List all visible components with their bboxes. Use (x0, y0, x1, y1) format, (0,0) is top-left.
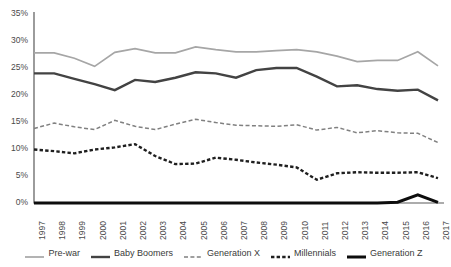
x-tick-label: 2013 (361, 221, 370, 240)
legend-label: Millennials (294, 248, 336, 258)
x-tick-label: 2005 (200, 221, 209, 240)
series-line-generation-z (34, 195, 438, 203)
y-axis: 0%5%10%15%20%25%30%35% (0, 0, 30, 215)
y-tick-label: 25% (11, 63, 28, 72)
legend-item-generation-z[interactable]: Generation Z (347, 248, 423, 258)
x-tick-label: 2003 (159, 221, 168, 240)
legend-swatch-icon (184, 248, 203, 258)
x-tick-label: 2010 (301, 221, 310, 240)
plot-area (32, 12, 444, 205)
legend-swatch-icon (271, 248, 290, 258)
x-tick-label: 2001 (119, 221, 128, 240)
x-axis: 1997199819992000200120022003200420052006… (32, 206, 444, 240)
x-tick-label: 2017 (442, 221, 451, 240)
legend-item-generation-x[interactable]: Generation X (184, 248, 260, 258)
y-tick-label: 15% (11, 117, 28, 126)
x-tick-label: 2006 (220, 221, 229, 240)
x-tick-label: 2007 (240, 221, 249, 240)
axis-lines (34, 12, 444, 203)
x-tick-label: 2015 (402, 221, 411, 240)
x-tick-label: 1999 (78, 221, 87, 240)
series-line-pre-war (34, 47, 438, 66)
series-line-generation-x (34, 119, 438, 142)
legend-item-baby-boomers[interactable]: Baby Boomers (91, 248, 173, 258)
x-tick-label: 1998 (58, 221, 67, 240)
y-tick-label: 30% (11, 36, 28, 45)
legend-swatch-icon (91, 248, 110, 258)
y-tick-label: 10% (11, 144, 28, 153)
x-tick-label: 2014 (381, 221, 390, 240)
x-tick-label: 2002 (139, 221, 148, 240)
y-tick-label: 20% (11, 90, 28, 99)
legend-label: Baby Boomers (114, 248, 173, 258)
x-tick-label: 2016 (422, 221, 431, 240)
x-tick-label: 1997 (38, 221, 47, 240)
x-tick-label: 2009 (280, 221, 289, 240)
x-tick-label: 2011 (321, 222, 330, 240)
x-tick-label: 2008 (260, 221, 269, 240)
y-tick-label: 0% (16, 198, 28, 207)
y-tick-label: 35% (11, 9, 28, 18)
legend-label: Generation Z (370, 248, 423, 258)
x-tick-label: 2000 (99, 221, 108, 240)
legend-label: Generation X (207, 248, 260, 258)
plot-svg (32, 12, 444, 205)
x-tick-label: 2012 (341, 221, 350, 240)
legend-item-millennials[interactable]: Millennials (271, 248, 336, 258)
series-line-millennials (34, 144, 438, 180)
legend-swatch-icon (25, 248, 44, 258)
series-line-baby-boomers (34, 68, 438, 100)
legend-item-pre-war[interactable]: Pre-war (25, 248, 80, 258)
legend-label: Pre-war (48, 248, 80, 258)
legend: Pre-warBaby BoomersGeneration XMillennia… (0, 243, 448, 263)
x-tick-label: 2004 (179, 221, 188, 240)
y-tick-label: 5% (16, 171, 28, 180)
legend-swatch-icon (347, 248, 366, 258)
